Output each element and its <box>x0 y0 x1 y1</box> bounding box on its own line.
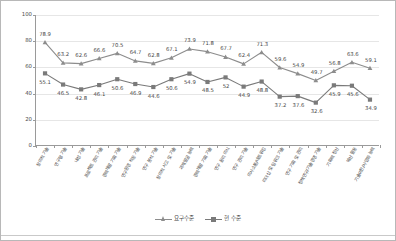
data-point <box>314 101 318 105</box>
x-axis-label: 연구환경 적응 기술 <box>121 147 141 179</box>
data-label: 50.6 <box>166 86 178 91</box>
y-tick-label: 0 <box>29 143 32 148</box>
data-point <box>278 95 282 99</box>
data-label: 64.7 <box>130 51 142 56</box>
data-label: 48.5 <box>202 89 214 94</box>
x-axis-label: 창의적 사고 및 기술 <box>156 147 177 180</box>
data-label: 59.1 <box>365 58 377 63</box>
data-point <box>259 50 264 54</box>
x-axis-label: 내성 기술 <box>74 147 86 164</box>
data-label: 54.9 <box>293 63 305 68</box>
data-point <box>43 40 48 44</box>
data-label: 56.8 <box>329 61 341 66</box>
data-point <box>350 84 354 88</box>
x-axis-label: 연구 관리 기술 <box>233 147 250 172</box>
data-label: 45.6 <box>347 93 359 98</box>
data-point <box>296 94 300 98</box>
data-point <box>133 82 137 86</box>
data-point <box>169 77 173 81</box>
data-label: 52 <box>223 84 230 89</box>
data-point <box>242 85 246 89</box>
x-axis-label: 기술이전/사업화 능력 <box>354 147 376 183</box>
data-point <box>260 79 264 83</box>
x-axis-label: 연구 기획 및 관리 <box>285 147 304 177</box>
data-label: 46.1 <box>93 92 105 97</box>
data-label: 73.9 <box>184 39 196 44</box>
data-point <box>332 83 336 87</box>
data-label: 32.6 <box>311 110 323 115</box>
x-tickmark <box>380 145 381 148</box>
data-label: 62.6 <box>75 53 87 58</box>
x-axis-label: 과제발굴 능력 <box>179 147 195 171</box>
data-label: 62.8 <box>148 53 160 58</box>
data-label: 48.8 <box>256 88 268 93</box>
data-label: 55.1 <box>39 80 51 85</box>
data-label: 37.2 <box>275 104 287 109</box>
x-axis-label: 연구 윤리 의식 <box>215 147 232 172</box>
data-label: 42.8 <box>75 96 87 101</box>
data-point <box>97 83 101 87</box>
y-tick-label: 100 <box>22 12 32 17</box>
x-axis-labels: 창의적 기술연구형 기술내성 기술프로젝트 관리 기술경력개발 기획 기술연구환… <box>35 147 379 205</box>
data-label: 37.6 <box>293 103 305 108</box>
data-label: 49.7 <box>311 70 323 75</box>
data-label: 67.1 <box>166 47 178 52</box>
data-label: 62.4 <box>238 54 250 59</box>
x-axis-label: 경력개발 기획 기술 <box>103 147 123 179</box>
data-label: 70.5 <box>112 43 124 48</box>
data-label: 50.6 <box>112 86 124 91</box>
data-label: 46.5 <box>57 91 69 96</box>
y-tick-label: 60 <box>25 65 32 70</box>
y-tick-label: 80 <box>25 38 32 43</box>
square-marker-icon <box>205 216 222 223</box>
x-axis-label: 연구형 기술 <box>54 147 68 168</box>
data-label: 67.7 <box>220 47 232 52</box>
data-label: 44.6 <box>148 94 160 99</box>
plot-area: 020406080100 78.963.262.666.670.564.762.… <box>35 15 379 146</box>
data-point <box>151 85 155 89</box>
data-label: 78.9 <box>39 32 51 37</box>
data-point <box>223 75 227 79</box>
triangle-marker-icon <box>155 216 172 223</box>
y-tick-label: 40 <box>25 91 32 96</box>
data-point <box>368 98 372 102</box>
data-label: 71.8 <box>202 41 214 46</box>
data-point <box>79 87 83 91</box>
data-point <box>61 82 65 86</box>
data-point <box>350 60 355 64</box>
data-point <box>43 71 47 75</box>
chart-container: 020406080100 78.963.262.666.670.564.762.… <box>0 0 396 241</box>
chart-legend: 요구수준현 수준 <box>1 211 395 227</box>
data-label: 45.9 <box>329 92 341 97</box>
data-label: 34.9 <box>365 107 377 112</box>
data-label: 71.3 <box>256 42 268 47</box>
legend-label: 현 수준 <box>224 216 241 222</box>
data-label: 44.9 <box>238 94 250 99</box>
data-label: 63.6 <box>347 52 359 57</box>
x-axis-label: 예산 활용 <box>346 147 358 164</box>
x-axis-label: 경력개발 기획 기술 <box>193 147 213 179</box>
data-label: 66.6 <box>93 48 105 53</box>
x-axis-label: 연구 분석 기술 <box>142 147 159 172</box>
data-point <box>205 80 209 84</box>
y-tick-label: 20 <box>25 117 32 122</box>
legend-item-2[interactable]: 현 수준 <box>205 216 241 223</box>
data-label: 63.2 <box>57 53 69 58</box>
x-axis-label: 창의적 기술 <box>36 147 50 168</box>
x-axis-label: 리더십 및 팀워크 기술 <box>263 147 286 184</box>
bottom-divider <box>1 235 395 236</box>
series-lines <box>36 15 379 145</box>
data-point <box>115 77 119 81</box>
data-point <box>187 72 191 76</box>
x-axis-label: 기획력 정산 <box>326 147 340 168</box>
data-label: 46.9 <box>130 91 142 96</box>
data-label: 54.9 <box>184 80 196 85</box>
data-label: 59.6 <box>275 57 287 62</box>
legend-label: 요구수준 <box>174 216 194 222</box>
legend-item-1[interactable]: 요구수준 <box>155 216 194 223</box>
data-point <box>115 51 120 55</box>
